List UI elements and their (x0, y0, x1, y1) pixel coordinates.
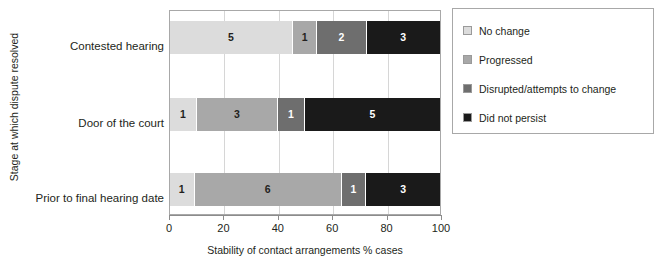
legend-label: Did not persist (479, 112, 546, 124)
bar-segment: 1 (278, 98, 305, 131)
bar-segment-value: 5 (370, 109, 376, 120)
x-axis-tick-label: 20 (217, 222, 229, 234)
x-axis-tick (441, 215, 442, 220)
x-axis-tick (387, 215, 388, 220)
legend-label: No change (479, 25, 530, 37)
bar-segment-value: 3 (400, 184, 406, 195)
x-axis-tick (278, 215, 279, 220)
legend-swatch-icon (463, 113, 472, 122)
bar-segment-value: 1 (179, 184, 185, 195)
x-axis-tick-label: 60 (326, 222, 338, 234)
bar-segment: 1 (293, 21, 318, 54)
x-axis-title: Stability of contact arrangements % case… (169, 244, 441, 256)
x-axis-tick (332, 215, 333, 220)
legend-item[interactable]: Did not persist (463, 103, 653, 132)
stacked-bar-chart: Stage at which dispute resolved Conteste… (0, 0, 666, 263)
bar-segment-value: 5 (228, 32, 234, 43)
plot-area: 512313151613 (169, 10, 441, 215)
bar-segment-value: 1 (288, 109, 294, 120)
legend-swatch-icon (463, 26, 472, 35)
category-label: Door of the court (18, 117, 164, 129)
bar-segment-value: 3 (400, 32, 406, 43)
bar-segment-value: 3 (234, 109, 240, 120)
bar-row: 1315 (170, 98, 440, 131)
legend-item[interactable]: Disrupted/attempts to change (463, 74, 653, 103)
bar-segment: 5 (305, 98, 440, 131)
category-axis-labels: Contested hearingDoor of the courtPrior … (18, 10, 164, 215)
bar-row: 5123 (170, 21, 440, 54)
x-axis-tick (169, 215, 170, 220)
bar-segment-value: 1 (351, 184, 357, 195)
bar-segment: 1 (170, 98, 197, 131)
bar-segment: 3 (367, 21, 440, 54)
x-axis-tick-label: 40 (272, 222, 284, 234)
bar-segment: 3 (366, 173, 440, 206)
bar-segment-value: 2 (339, 32, 345, 43)
x-axis-tick-label: 100 (432, 222, 450, 234)
bar-segment-value: 1 (180, 109, 186, 120)
legend-item[interactable]: Progressed (463, 45, 653, 74)
legend-label: Progressed (479, 54, 533, 66)
x-axis-tick-label: 0 (166, 222, 172, 234)
legend-item[interactable]: No change (463, 16, 653, 45)
chart-legend: No changeProgressedDisrupted/attempts to… (452, 8, 654, 134)
bar-segment: 2 (317, 21, 366, 54)
bar-segment: 3 (197, 98, 278, 131)
bar-segment: 1 (342, 173, 367, 206)
bar-segment-value: 6 (265, 184, 271, 195)
x-axis-tick-label: 80 (380, 222, 392, 234)
bar-segment: 1 (170, 173, 195, 206)
legend-swatch-icon (463, 84, 472, 93)
x-axis-line (169, 215, 441, 216)
category-label: Contested hearing (18, 40, 164, 52)
legend-label: Disrupted/attempts to change (479, 83, 616, 95)
category-label: Prior to final hearing date (18, 192, 164, 204)
bar-segment-value: 1 (302, 32, 308, 43)
bar-row: 1613 (170, 173, 440, 206)
bar-segment: 5 (170, 21, 293, 54)
legend-swatch-icon (463, 55, 472, 64)
x-axis-tick (223, 215, 224, 220)
bar-segment: 6 (195, 173, 342, 206)
